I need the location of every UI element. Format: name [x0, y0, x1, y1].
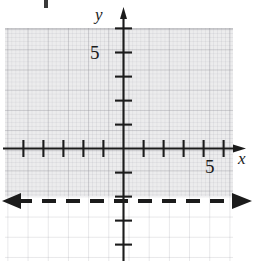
y-axis-tick-label-5: 5	[90, 43, 100, 62]
graph-figure: y x 5 5	[0, 0, 255, 261]
x-axis-label: x	[238, 150, 246, 167]
x-axis-tick-label-5: 5	[205, 157, 215, 176]
graph-line-arrowhead-left	[2, 193, 21, 209]
axes-and-plot	[0, 0, 255, 261]
y-axis-label: y	[95, 6, 103, 23]
graph-line-arrowhead-right	[232, 193, 252, 209]
y-axis-arrowhead	[120, 7, 127, 19]
